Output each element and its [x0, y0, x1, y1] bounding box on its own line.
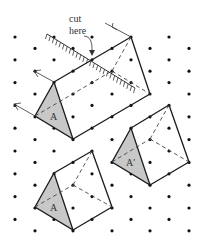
prism-diagram: cut here A A′ A [0, 0, 201, 244]
here-label: here [69, 25, 87, 36]
face-label-a-prime: A′ [126, 157, 135, 168]
cut-label: cut [69, 13, 81, 24]
face-label-a-big: A [50, 111, 58, 122]
face-label-a-bottom: A [50, 202, 58, 213]
diagram-canvas: cut here A A′ A [0, 0, 201, 244]
long-prism [14, 23, 150, 139]
